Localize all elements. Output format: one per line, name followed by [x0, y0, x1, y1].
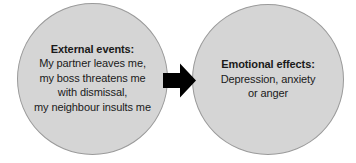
node-emotional-effects-heading: Emotional effects:: [197, 57, 339, 72]
diagram-canvas: External events: My partner leaves me, m…: [0, 0, 356, 163]
arrow-right-icon: [162, 62, 197, 99]
node-external-events: External events: My partner leaves me, m…: [17, 3, 168, 155]
node-external-events-heading: External events:: [22, 42, 163, 57]
node-emotional-effects-text: Emotional effects: Depression, anxiety o…: [193, 57, 343, 101]
node-external-events-line-2: my boss threatens me: [22, 71, 163, 86]
node-external-events-line-1: My partner leaves me,: [22, 56, 163, 71]
node-emotional-effects: Emotional effects: Depression, anxiety o…: [192, 4, 344, 155]
node-emotional-effects-line-1: Depression, anxiety: [197, 72, 339, 87]
node-external-events-line-4: my neighbour insults me: [22, 100, 163, 115]
node-emotional-effects-line-2: or anger: [197, 86, 339, 101]
node-external-events-text: External events: My partner leaves me, m…: [18, 42, 167, 115]
node-external-events-line-3: with dismissal,: [22, 85, 163, 100]
